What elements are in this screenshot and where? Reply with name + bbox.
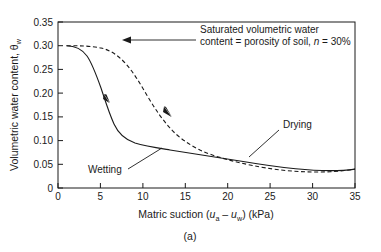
saturated-note-line2-suffix: = 30% [319, 36, 351, 47]
x-axis-tick-labels: 0 5 10 15 20 25 30 35 [55, 191, 361, 202]
x-tick-label: 20 [222, 191, 234, 202]
left-arrow-icon [122, 37, 131, 44]
soil-water-characteristic-curve-chart: 0 0.05 0.10 0.15 0.20 0.25 0.30 0.35 0 5… [0, 0, 381, 252]
saturated-note-line2-prefix: content = porosity of soil, [200, 36, 314, 47]
x-axis-title: Matric suction (ua – uw) (kPa) [138, 208, 273, 223]
x-tick-label: 5 [98, 191, 104, 202]
x-axis-title-minus: – [219, 208, 231, 220]
svg-text:Matric suction (ua – uw) (kPa): Matric suction (ua – uw) (kPa) [138, 208, 273, 223]
saturated-note-leader [122, 37, 196, 44]
x-axis-ticks [58, 183, 355, 188]
y-axis-ticks [58, 22, 63, 188]
wetting-direction-arrow-icon [103, 94, 110, 103]
figure-container: 0 0.05 0.10 0.15 0.20 0.25 0.30 0.35 0 5… [0, 0, 381, 252]
y-axis-title: Volumetric water content, θw [8, 38, 23, 171]
wetting-label: Wetting [88, 164, 122, 175]
x-tick-label: 10 [137, 191, 149, 202]
y-tick-label: 0.15 [34, 111, 54, 122]
x-axis-title-suffix: ) (kPa) [242, 208, 274, 220]
x-tick-label: 30 [307, 191, 319, 202]
saturated-note-text: Saturated volumetric water content = por… [200, 24, 351, 47]
x-tick-label: 25 [265, 191, 277, 202]
drying-label-group: Drying [249, 119, 312, 157]
y-tick-label: 0.20 [34, 88, 54, 99]
drying-curve [67, 46, 356, 172]
drying-label: Drying [283, 119, 312, 130]
y-axis-title-subscript: w [14, 38, 23, 45]
wetting-curve [67, 46, 356, 171]
wetting-label-group: Wetting [88, 148, 162, 175]
y-axis-tick-labels: 0 0.05 0.10 0.15 0.20 0.25 0.30 0.35 [34, 17, 54, 194]
y-tick-label: 0.10 [34, 135, 54, 146]
y-tick-label: 0.05 [34, 159, 54, 170]
x-tick-label: 35 [349, 191, 361, 202]
x-axis-title-prefix: Matric suction ( [138, 208, 210, 220]
saturated-note-line1: Saturated volumetric water [200, 24, 320, 35]
figure-caption: (a) [184, 230, 197, 242]
y-tick-label: 0.25 [34, 64, 54, 75]
y-tick-label: 0.30 [34, 40, 54, 51]
y-axis-title-text: Volumetric water content, [8, 50, 20, 171]
svg-text:Volumetric water content, θw: Volumetric water content, θw [8, 38, 23, 171]
x-tick-label: 0 [55, 191, 61, 202]
y-tick-label: 0 [47, 183, 53, 194]
x-tick-label: 15 [180, 191, 192, 202]
svg-text:content = porosity of soil, n: content = porosity of soil, n = 30% [200, 36, 351, 47]
drying-direction-arrow-icon [163, 106, 172, 117]
y-tick-label: 0.35 [34, 17, 54, 28]
